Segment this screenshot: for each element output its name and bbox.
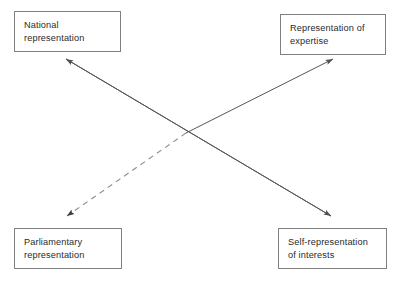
node-label-representation-of-expertise: Representation of expertise <box>281 22 369 47</box>
diagram-canvas: National representation Representation o… <box>0 0 397 281</box>
node-label-national-representation: National representation <box>15 19 88 44</box>
connector-national-selfrep-lower-segment <box>66 59 331 216</box>
node-box-self-representation-of-interests[interactable]: Self-representation of interests <box>278 228 387 269</box>
connector-parliamentary-expertise-solid-segment <box>186 59 333 133</box>
node-box-representation-of-expertise[interactable]: Representation of expertise <box>280 14 386 55</box>
node-label-self-representation-of-interests: Self-representation of interests <box>279 236 372 261</box>
connector-parliamentary-expertise-dashed-segment <box>67 133 186 216</box>
connector-parliamentary-expertise <box>67 59 333 216</box>
node-box-parliamentary-representation[interactable]: Parliamentary representation <box>14 228 122 269</box>
connector-national-selfrep <box>66 59 331 216</box>
node-box-national-representation[interactable]: National representation <box>14 11 121 52</box>
node-label-parliamentary-representation: Parliamentary representation <box>15 236 88 261</box>
